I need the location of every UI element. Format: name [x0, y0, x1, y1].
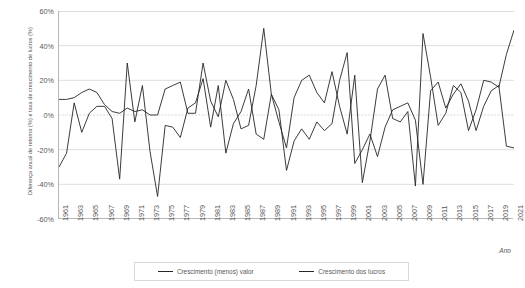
legend-item-earnings-growth: Crescimento dos lucros — [299, 268, 385, 275]
x-axis-tick-label: 1963 — [76, 205, 85, 221]
x-axis-tick-label: 2017 — [486, 205, 495, 221]
y-axis-tick-label: -20% — [8, 145, 54, 154]
x-axis-tick-label: 1989 — [273, 205, 282, 221]
y-axis-tick-label: 40% — [8, 41, 54, 50]
legend-label: Crescimento (menos) valor — [177, 268, 254, 275]
x-axis-tick-label: 1973 — [152, 205, 161, 221]
y-axis-tick-label: -40% — [8, 180, 54, 189]
x-axis-tick-label: 1969 — [122, 205, 131, 221]
x-axis-tick-label: 2021 — [516, 205, 525, 221]
legend-swatch-icon — [158, 271, 173, 272]
x-axis-tick-label: 1999 — [349, 205, 358, 221]
x-axis-tick-label: 2005 — [395, 205, 404, 221]
x-axis-tick-label: 1997 — [334, 205, 343, 221]
x-axis-tick-label: 1991 — [289, 205, 298, 221]
x-axis-tick-label: 1977 — [182, 205, 191, 221]
x-axis-tick-label: 1965 — [91, 205, 100, 221]
x-axis-tick-label: 1987 — [258, 205, 267, 221]
x-axis-tick-label: 2013 — [455, 205, 464, 221]
plot-area — [58, 11, 513, 219]
x-axis-tick-label: 2015 — [471, 205, 480, 221]
x-axis-tick-label: 2011 — [440, 206, 449, 221]
x-axis-tick-label: 1971 — [137, 205, 146, 221]
x-axis-tick-label: 2007 — [410, 205, 419, 221]
chart-plot-svg — [59, 11, 514, 219]
legend-swatch-icon — [299, 271, 314, 272]
x-axis-tick-label: 2009 — [425, 205, 434, 221]
x-axis-tick-label: 1983 — [228, 205, 237, 221]
x-axis-tick-label: 1961 — [61, 205, 70, 221]
y-axis-tick-label: 20% — [8, 76, 54, 85]
data-series-line-1 — [59, 53, 514, 197]
legend-label: Crescimento dos lucros — [318, 268, 385, 275]
y-axis-tick-label: 0% — [8, 111, 54, 120]
y-axis-tick-label: 60% — [8, 7, 54, 16]
x-axis-tick-label: 1995 — [319, 205, 328, 221]
x-axis-tick-label: 1981 — [213, 205, 222, 221]
x-axis-tick-label: 1967 — [107, 205, 116, 221]
legend-item-growth-minus-value: Crescimento (menos) valor — [158, 268, 254, 275]
x-axis-tick-label: 1975 — [167, 205, 176, 221]
x-axis-tick-label: 2003 — [380, 205, 389, 221]
x-axis-title: Ano — [0, 247, 511, 254]
x-axis-tick-label: 1979 — [198, 205, 207, 221]
x-axis-tick-label: 1993 — [304, 205, 313, 221]
x-axis-tick-label: 2019 — [501, 205, 510, 221]
x-axis-tick-label: 2001 — [364, 205, 373, 221]
chart-legend: Crescimento (menos) valor Crescimento do… — [134, 262, 409, 281]
x-axis-tick-label: 1985 — [243, 205, 252, 221]
